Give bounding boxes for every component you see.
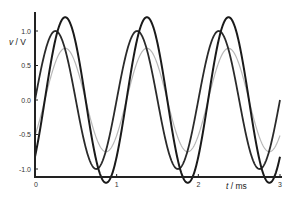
y-axis-label: v / V — [9, 37, 26, 47]
x-axis-label: t / ms — [226, 181, 247, 191]
x-tick-label: 1 — [115, 181, 119, 188]
waveform-chart: 1.00.50.0-0.5-1.0 0123 v / V t / ms — [0, 0, 299, 201]
y-tick-label: 0.0 — [21, 97, 31, 104]
x-tick-label: 0 — [34, 181, 38, 188]
x-axis-unit: / ms — [228, 181, 246, 191]
y-tick-label: -0.5 — [19, 131, 31, 138]
axes — [34, 12, 282, 178]
y-tick-label: 0.5 — [21, 62, 31, 69]
y-tick-label: 1.0 — [21, 28, 31, 35]
series-line-1 — [35, 31, 280, 169]
x-tick-label: 3 — [278, 181, 282, 188]
x-tick-label: 2 — [196, 181, 200, 188]
y-axis-unit: / V — [13, 37, 26, 47]
y-tick-label: -1.0 — [19, 166, 31, 173]
series-layer — [35, 17, 280, 183]
